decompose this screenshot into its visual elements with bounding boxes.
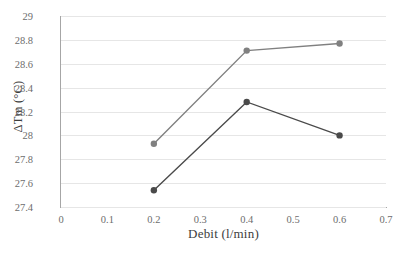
x-axis-tick-label: 0 [41,214,81,225]
y-axis-tick-label: 28.2 [0,106,33,117]
x-axis-tick-label: 0.5 [273,214,313,225]
x-axis-tick-label: 0.3 [180,214,220,225]
x-axis-tick-label: 0.4 [227,214,267,225]
x-axis-tick-label: 0.1 [87,214,127,225]
x-axis-tick-label: 0.2 [134,214,174,225]
series-layer [61,16,386,207]
data-point-marker [244,99,250,105]
chart-figure: ΔTm (°C) 27.427.627.82828.228.428.628.82… [0,0,410,255]
y-axis-tick-label: 27.4 [0,202,33,213]
x-axis-title: Debit (l/min) [61,226,386,242]
x-axis-tick-label: 0.6 [320,214,360,225]
y-axis-tick-label: 27.8 [0,154,33,165]
data-point-marker [151,141,157,147]
data-point-marker [151,187,157,193]
y-axis-tick-label: 27.6 [0,178,33,189]
plot-area: 27.427.627.82828.228.428.628.829 00.10.2… [61,16,386,207]
x-axis-tick-label: 0.7 [366,214,406,225]
data-point-marker [336,132,342,138]
y-axis-tick-label: 28.8 [0,34,33,45]
y-axis-tick-label: 29 [0,11,33,22]
gridline [61,207,386,208]
data-point-marker [336,40,342,46]
y-axis-tick-label: 28 [0,130,33,141]
y-axis-tick-label: 28.4 [0,82,33,93]
data-point-marker [244,47,250,53]
y-axis-tick-label: 28.6 [0,58,33,69]
series-line [154,43,340,143]
